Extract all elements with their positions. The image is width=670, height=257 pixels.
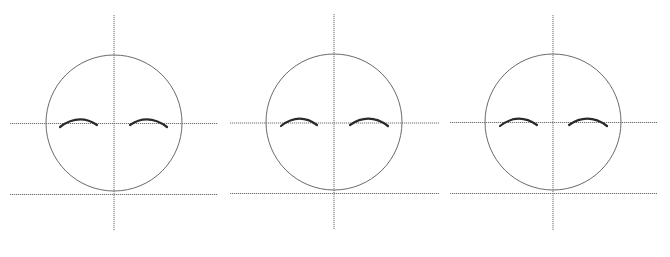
left-eyebrow <box>281 119 317 126</box>
diagram-canvas <box>0 0 670 257</box>
face-construction-diagram <box>0 0 670 257</box>
face-panel-2 <box>230 14 439 229</box>
right-eyebrow <box>350 119 388 126</box>
face-panel-3 <box>450 15 657 230</box>
face-panel-1 <box>10 15 218 231</box>
